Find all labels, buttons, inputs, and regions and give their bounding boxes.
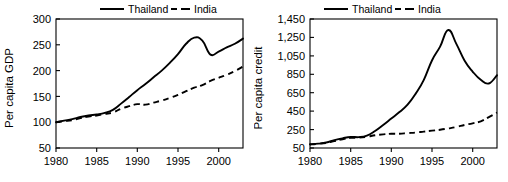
series-line-india-gdp: [56, 66, 243, 122]
y-tick-label-300: 300: [33, 13, 51, 25]
per-capita-gdp-svg: Thailand India Per capita GDP 300 250 20…: [0, 0, 254, 182]
x-tick-label-1990: 1990: [125, 155, 149, 167]
series-line-thailand-credit: [310, 30, 497, 144]
y-tick-label-200: 200: [33, 65, 51, 77]
y-tick-label-450: 450: [287, 105, 305, 117]
x-tick-label-2000: 2000: [460, 155, 484, 167]
y-tick-label-50: 50: [39, 142, 51, 154]
y-tick-label-100: 100: [33, 116, 51, 128]
y-tick-label-50: 50: [293, 142, 305, 154]
x-tick-label-2000: 2000: [206, 155, 230, 167]
x-tick-label-1980: 1980: [44, 155, 68, 167]
y-tick-label-1450: 1,450: [277, 13, 305, 25]
y-tick-label-650: 650: [287, 87, 305, 99]
y-tick-label-1250: 1,250: [277, 31, 305, 43]
chart-panel-per-capita-credit: Thailand India Per capita credit 1,450 1…: [254, 0, 508, 182]
y-tick-label-150: 150: [33, 91, 51, 103]
chart-panel-per-capita-gdp: Thailand India Per capita GDP 300 250 20…: [0, 0, 254, 182]
y-axis-title-right: Per capita credit: [254, 46, 264, 130]
x-tick-label-1985: 1985: [338, 155, 362, 167]
y-tick-label-250: 250: [33, 39, 51, 51]
y-tick-label-250: 250: [287, 124, 305, 136]
legend-label-thailand: Thailand: [128, 3, 168, 15]
legend-right: Thailand India: [324, 3, 441, 15]
y-tick-label-1050: 1,050: [277, 50, 305, 62]
legend-label-india: India: [194, 3, 217, 15]
legend-left: Thailand India: [100, 3, 217, 15]
legend-label-thailand: Thailand: [352, 3, 392, 15]
x-tick-label-1980: 1980: [298, 155, 322, 167]
two-panel-line-chart-figure: Thailand India Per capita GDP 300 250 20…: [0, 0, 508, 182]
plot-frame-right: [310, 19, 497, 148]
x-tick-label-1985: 1985: [84, 155, 108, 167]
per-capita-credit-svg: Thailand India Per capita credit 1,450 1…: [254, 0, 508, 182]
legend-label-india: India: [418, 3, 441, 15]
x-tick-label-1990: 1990: [379, 155, 403, 167]
y-axis-title-left: Per capita GDP: [3, 48, 15, 128]
x-tick-label-1995: 1995: [420, 155, 444, 167]
plot-frame-left: [56, 19, 243, 148]
y-tick-label-850: 850: [287, 68, 305, 80]
x-tick-label-1995: 1995: [166, 155, 190, 167]
